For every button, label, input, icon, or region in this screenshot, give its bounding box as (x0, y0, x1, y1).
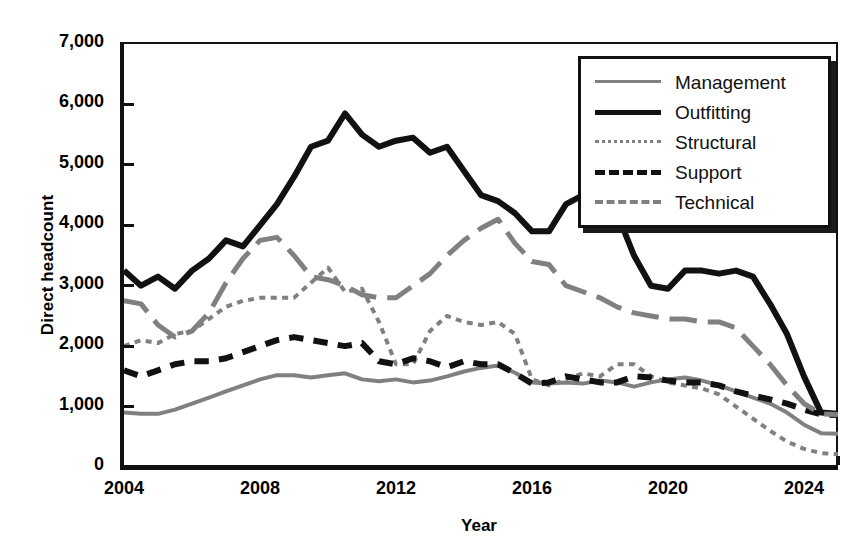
x-tick-label: 2004 (104, 478, 144, 499)
legend-swatch-management (595, 76, 661, 88)
x-tick-label: 2020 (648, 478, 688, 499)
y-tick-mark (120, 163, 134, 166)
y-tick-mark (120, 103, 134, 106)
series-line-technical (124, 219, 838, 414)
legend-label: Structural (675, 133, 756, 152)
legend-label: Support (675, 163, 742, 182)
legend-item-outfitting[interactable]: Outfitting (581, 97, 828, 127)
chart-figure: Direct headcount Year 01,0002,0003,0004,… (0, 0, 865, 554)
x-tick-label: 2016 (512, 478, 552, 499)
legend-label: Technical (675, 193, 754, 212)
legend-item-support[interactable]: Support (581, 157, 828, 187)
legend-swatch-structural (595, 136, 661, 148)
x-tick-label: 2024 (784, 478, 824, 499)
legend-label: Management (675, 73, 786, 92)
legend-item-technical[interactable]: Technical (581, 187, 828, 217)
legend-swatch-support (595, 166, 661, 178)
legend-swatch-technical (595, 196, 661, 208)
legend-swatch-outfitting (595, 106, 661, 118)
y-tick-mark (120, 405, 134, 408)
y-tick-mark (120, 224, 134, 227)
y-tick-mark (120, 284, 134, 287)
series-line-management (124, 365, 838, 433)
y-tick-mark (120, 345, 134, 348)
series-line-structural (124, 268, 838, 455)
legend-label: Outfitting (675, 103, 751, 122)
legend: ManagementOutfittingStructuralSupportTec… (578, 56, 831, 228)
x-tick-label: 2008 (240, 478, 280, 499)
legend-item-structural[interactable]: Structural (581, 127, 828, 157)
series-line-support (124, 337, 838, 415)
legend-item-management[interactable]: Management (581, 67, 828, 97)
x-tick-label: 2012 (376, 478, 416, 499)
